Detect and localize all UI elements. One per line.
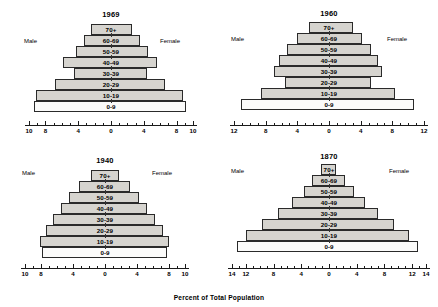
- x-tick: [274, 264, 275, 268]
- bar-row: 60-69: [219, 33, 438, 44]
- bar-label: 10-19: [81, 90, 141, 101]
- x-minor-tick: [103, 123, 104, 126]
- x-minor-tick: [308, 266, 309, 269]
- x-minor-tick: [353, 123, 354, 126]
- bar-row: 60-69: [0, 35, 219, 46]
- x-tick: [412, 264, 413, 268]
- x-tick-label: 8: [391, 127, 394, 134]
- x-tick: [297, 121, 298, 125]
- x-minor-tick: [294, 266, 295, 269]
- bar-stack-1: 70+60-6950-5940-4930-3920-2910-190-9: [219, 22, 438, 110]
- plot-area-1: 1960MaleFemale70+60-6950-5940-4930-3920-…: [219, 0, 438, 154]
- bar-row: 40-49: [219, 55, 438, 66]
- bar-label: 30-39: [75, 214, 135, 225]
- bar-label: 20-29: [81, 79, 141, 90]
- bar-row: 70+: [0, 170, 219, 181]
- bar-label: 50-59: [299, 44, 359, 55]
- x-tick: [169, 264, 170, 268]
- bar-label: 20-29: [299, 219, 359, 230]
- bar-label: 60-69: [81, 35, 141, 46]
- bar-stack-3: 70+60-6950-5940-4930-3920-2910-190-9: [219, 164, 438, 252]
- bar-row: 60-69: [219, 175, 438, 186]
- x-tick: [29, 121, 30, 125]
- x-tick-label: 4: [359, 127, 362, 134]
- x-tick-label: 10: [182, 270, 189, 277]
- bar-label: 40-49: [299, 55, 359, 66]
- bar-row: 20-29: [0, 225, 219, 236]
- x-tick-label: 14: [423, 270, 430, 277]
- bar-label: 40-49: [75, 203, 135, 214]
- bar-stack-2: 70+60-6950-5940-4930-3920-2910-190-9: [0, 170, 219, 258]
- x-minor-tick: [145, 266, 146, 269]
- x-minor-tick: [70, 123, 71, 126]
- x-tick-label: 10: [22, 270, 29, 277]
- bar-stack-0: 70+60-6950-5940-4930-3920-2910-190-9: [0, 24, 219, 112]
- x-minor-tick: [267, 266, 268, 269]
- x-tick: [25, 264, 26, 268]
- x-minor-tick: [119, 123, 120, 126]
- x-tick-label: 0: [103, 270, 106, 277]
- x-minor-tick: [160, 123, 161, 126]
- x-tick-label: 4: [76, 127, 79, 134]
- bar-row: 30-39: [0, 214, 219, 225]
- bar-row: 40-49: [0, 203, 219, 214]
- chart-title-3: 1870: [269, 152, 389, 161]
- bar-label: 50-59: [75, 192, 135, 203]
- x-minor-tick: [57, 266, 58, 269]
- x-minor-tick: [364, 266, 365, 269]
- bar-label: 60-69: [299, 175, 359, 186]
- x-tick: [329, 264, 330, 268]
- x-minor-tick: [239, 266, 240, 269]
- x-tick-label: 4: [296, 127, 299, 134]
- x-tick-label: 4: [71, 270, 74, 277]
- x-tick-label: 4: [142, 127, 145, 134]
- x-minor-tick: [384, 123, 385, 126]
- x-axis-line-0: [25, 125, 197, 126]
- plot-area-2: 1940MaleFemale70+60-6950-5940-4930-3920-…: [0, 154, 219, 287]
- x-tick: [78, 121, 79, 125]
- bar-row: 70+: [219, 164, 438, 175]
- bar-label: 60-69: [75, 181, 135, 192]
- panel-chart-2: 1940MaleFemale70+60-6950-5940-4930-3920-…: [0, 154, 219, 287]
- bar-label: 10-19: [75, 236, 135, 247]
- x-tick-label: 10: [26, 127, 33, 134]
- x-minor-tick: [305, 123, 306, 126]
- bar-row: 20-29: [0, 79, 219, 90]
- x-tick: [384, 264, 385, 268]
- x-minor-tick: [408, 123, 409, 126]
- bar-label: 40-49: [81, 57, 141, 68]
- x-minor-tick: [81, 266, 82, 269]
- x-minor-tick: [315, 266, 316, 269]
- bar-label: 30-39: [299, 208, 359, 219]
- x-axis-line-1: [230, 125, 428, 126]
- bar-label: 70+: [299, 164, 359, 175]
- x-tick-label: 10: [190, 127, 197, 134]
- bar-label: 0-9: [299, 99, 359, 110]
- x-tick: [301, 264, 302, 268]
- x-tick-label: 12: [242, 270, 249, 277]
- x-minor-tick: [152, 123, 153, 126]
- x-minor-tick: [97, 266, 98, 269]
- bar-row: 30-39: [219, 208, 438, 219]
- x-minor-tick: [161, 266, 162, 269]
- x-minor-tick: [281, 266, 282, 269]
- bar-row: 50-59: [219, 186, 438, 197]
- x-minor-tick: [391, 266, 392, 269]
- panel-chart-0: 1969MaleFemale70+60-6950-5940-4930-3920-…: [0, 0, 219, 154]
- bar-label: 0-9: [75, 247, 135, 258]
- x-minor-tick: [350, 266, 351, 269]
- x-tick: [234, 121, 235, 125]
- panel-chart-1: 1960MaleFemale70+60-6950-5940-4930-3920-…: [219, 0, 438, 154]
- x-tick-label: 8: [272, 270, 275, 277]
- x-minor-tick: [336, 266, 337, 269]
- x-axis-line-3: [228, 268, 430, 269]
- x-minor-tick: [37, 123, 38, 126]
- x-tick: [105, 264, 106, 268]
- x-minor-tick: [289, 123, 290, 126]
- bar-row: 60-69: [0, 181, 219, 192]
- x-tick-label: 8: [39, 270, 42, 277]
- bar-label: 70+: [299, 22, 359, 33]
- bar-row: 30-39: [219, 66, 438, 77]
- bar-label: 40-49: [299, 197, 359, 208]
- x-minor-tick: [185, 123, 186, 126]
